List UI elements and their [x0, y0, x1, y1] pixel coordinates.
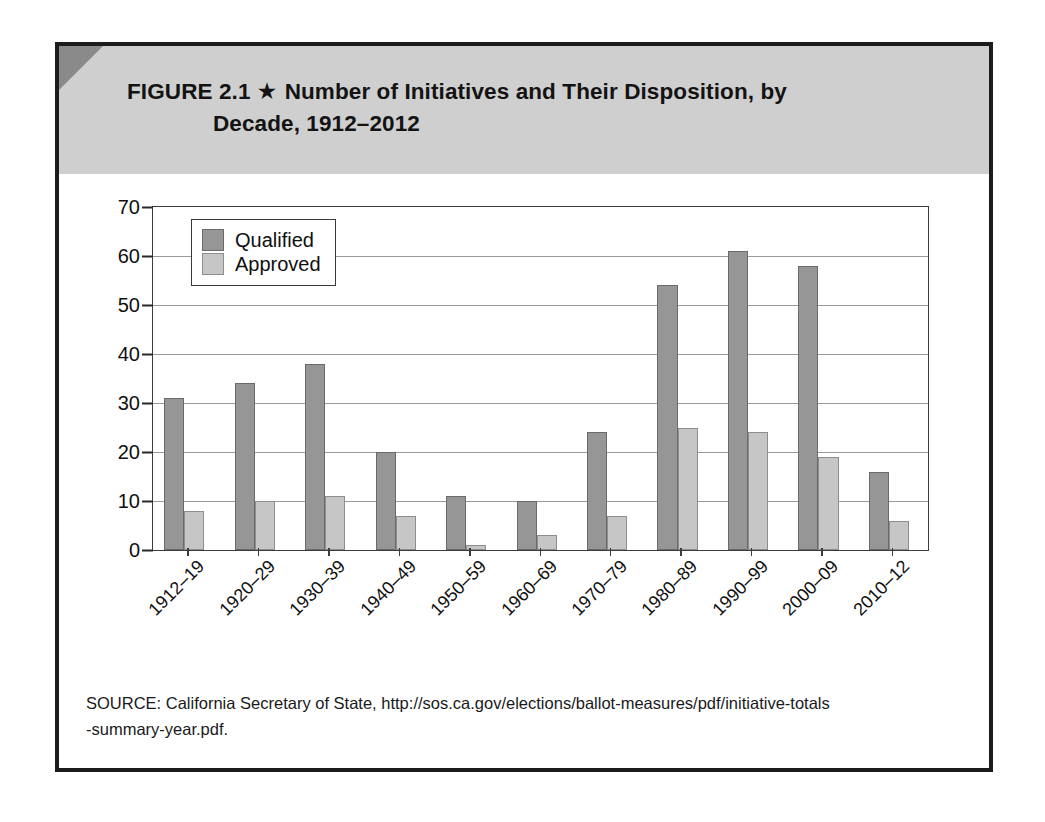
x-tick-mark	[540, 548, 542, 556]
bar-group	[576, 207, 646, 550]
x-tick-mark	[751, 548, 753, 556]
x-tick-mark	[680, 548, 682, 556]
bar-group	[364, 207, 434, 550]
bar-qualified	[657, 285, 677, 550]
corner-fold-decoration	[59, 46, 103, 90]
bar-group	[787, 207, 857, 550]
star-icon: ★	[258, 77, 276, 105]
bar-approved	[325, 496, 345, 550]
y-tick-label: 50	[118, 294, 140, 317]
bar-qualified	[728, 251, 748, 550]
legend-label-approved: Approved	[235, 254, 321, 274]
bar-approved	[255, 501, 275, 550]
bar-qualified	[869, 472, 889, 550]
legend-swatch-approved	[202, 253, 224, 275]
y-tick-mark	[142, 354, 153, 356]
x-tick-label: 1912–19	[145, 556, 209, 620]
source-note: SOURCE: California Secretary of State, h…	[86, 691, 959, 742]
y-tick-mark	[142, 452, 153, 454]
bar-qualified	[305, 364, 325, 550]
x-tick-label: 1980–89	[638, 556, 702, 620]
y-tick-mark	[142, 403, 153, 405]
y-tick-label: 30	[118, 392, 140, 415]
legend-swatch-qualified	[202, 229, 224, 251]
x-tick-mark	[328, 548, 330, 556]
legend-item-qualified: Qualified	[202, 229, 321, 251]
x-axis-labels: 1912–191920–291930–391940–491950–591960–…	[152, 556, 929, 666]
y-tick-mark	[142, 305, 153, 307]
bar-approved	[678, 428, 698, 551]
bar-approved	[396, 516, 416, 550]
bar-approved	[748, 432, 768, 550]
legend-label-qualified: Qualified	[235, 230, 314, 250]
bar-qualified	[587, 432, 607, 550]
x-tick-label: 2010–12	[849, 556, 913, 620]
bar-qualified	[517, 501, 537, 550]
y-tick-label: 10	[118, 490, 140, 513]
figure-frame: FIGURE 2.1★Number of Initiatives and The…	[55, 42, 993, 772]
figure-header-band: FIGURE 2.1★Number of Initiatives and The…	[59, 46, 989, 174]
x-tick-label: 1960–69	[497, 556, 561, 620]
bar-approved	[184, 511, 204, 550]
plot-area: 010203040506070 Qualified Approved	[152, 206, 929, 551]
bar-qualified	[446, 496, 466, 550]
y-tick-mark	[142, 256, 153, 258]
bar-group	[858, 207, 928, 550]
x-tick-mark	[399, 548, 401, 556]
bar-qualified	[164, 398, 184, 550]
x-tick-label: 1930–39	[286, 556, 350, 620]
bar-approved	[889, 521, 909, 550]
x-tick-mark	[469, 548, 471, 556]
legend-item-approved: Approved	[202, 253, 321, 275]
bar-qualified	[798, 266, 818, 550]
chart-region: 010203040506070 Qualified Approved 1912–…	[59, 174, 989, 684]
y-tick-label: 60	[118, 245, 140, 268]
bar-group	[646, 207, 716, 550]
figure-title: FIGURE 2.1★Number of Initiatives and The…	[127, 76, 949, 140]
x-tick-mark	[821, 548, 823, 556]
y-tick-mark	[142, 550, 153, 552]
y-tick-label: 40	[118, 343, 140, 366]
bar-group	[505, 207, 575, 550]
figure-title-line-2: Decade, 1912–2012	[213, 108, 949, 140]
source-note-line-1: SOURCE: California Secretary of State, h…	[86, 691, 959, 717]
chart-legend: Qualified Approved	[191, 219, 336, 286]
source-note-line-2: -summary-year.pdf.	[86, 717, 959, 743]
bar-qualified	[235, 383, 255, 550]
y-tick-label: 70	[118, 196, 140, 219]
x-tick-mark	[892, 548, 894, 556]
y-tick-mark	[142, 501, 153, 503]
figure-number-label: FIGURE 2.1	[127, 79, 251, 104]
x-tick-mark	[610, 548, 612, 556]
x-tick-mark	[258, 548, 260, 556]
x-tick-label: 1970–79	[567, 556, 631, 620]
y-tick-label: 20	[118, 441, 140, 464]
y-tick-label: 0	[129, 539, 140, 562]
y-tick-mark	[142, 207, 153, 209]
x-tick-label: 2000–09	[779, 556, 843, 620]
bar-approved	[607, 516, 627, 550]
x-tick-mark	[187, 548, 189, 556]
x-tick-label: 1920–29	[215, 556, 279, 620]
bar-qualified	[376, 452, 396, 550]
x-tick-label: 1940–49	[356, 556, 420, 620]
bar-approved	[818, 457, 838, 550]
x-tick-label: 1990–99	[708, 556, 772, 620]
bar-group	[435, 207, 505, 550]
figure-title-line-1: Number of Initiatives and Their Disposit…	[285, 79, 787, 104]
x-tick-label: 1950–59	[427, 556, 491, 620]
bar-group	[717, 207, 787, 550]
